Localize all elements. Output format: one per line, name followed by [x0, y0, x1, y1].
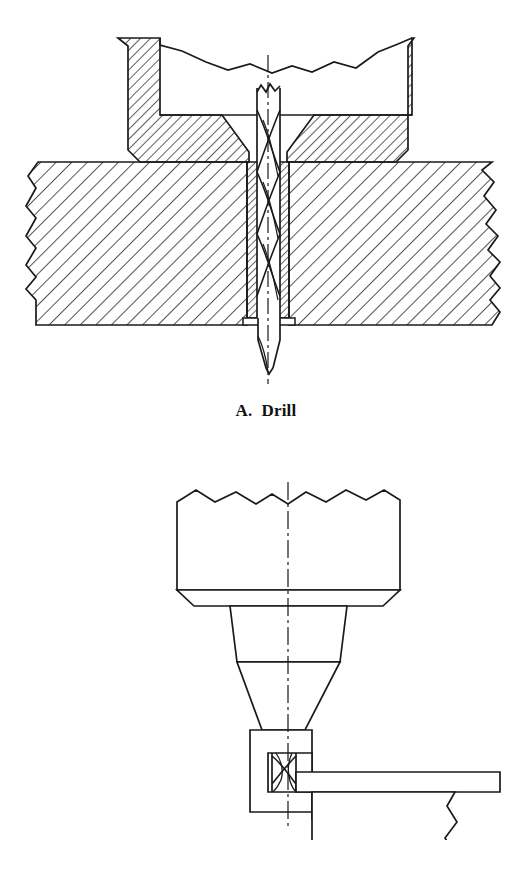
- workpiece-panel: [296, 772, 500, 792]
- router-section-drawing: [0, 440, 532, 840]
- caption-drill: A. Drill: [0, 401, 532, 421]
- figure-panel-drill: A. Drill: [0, 0, 532, 440]
- drill-section-drawing: [0, 0, 532, 400]
- figure-panel-router: B. Router: [0, 440, 532, 880]
- support-block: [312, 792, 457, 840]
- figure-page: A. Drill: [0, 0, 532, 880]
